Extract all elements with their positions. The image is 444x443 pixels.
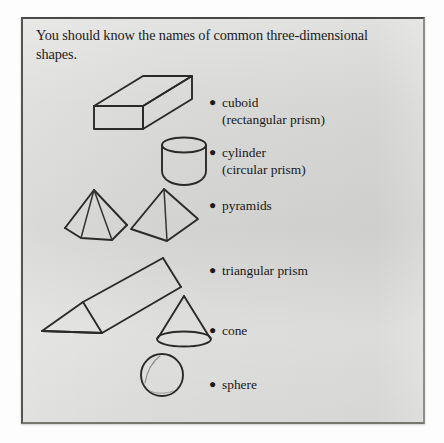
sphere-figure (23, 19, 427, 426)
shape-label-sphere: sphere (222, 376, 257, 393)
label-group-cuboid: cuboid (rectangular prism) (222, 94, 325, 128)
label-row-cone: ● cone (209, 322, 247, 339)
shape-label-triangular-prism: triangular prism (222, 262, 308, 279)
label-row-triangular-prism: ● triangular prism (209, 262, 308, 279)
shape-sublabel-cuboid: (rectangular prism) (222, 111, 325, 128)
bullet-icon: ● (209, 322, 222, 339)
shape-illustrations (23, 19, 427, 426)
label-group-cylinder: cylinder (circular prism) (222, 144, 306, 178)
label-row-cuboid: ● cuboid (rectangular prism) (209, 94, 325, 128)
bullet-icon: ● (209, 94, 222, 111)
label-row-sphere: ● sphere (209, 376, 257, 393)
bullet-icon: ● (209, 262, 222, 279)
sphere-shape (141, 354, 183, 396)
bullet-icon: ● (209, 197, 222, 214)
label-row-cylinder: ● cylinder (circular prism) (209, 144, 306, 178)
bullet-icon: ● (209, 144, 222, 161)
label-row-pyramids: ● pyramids (209, 197, 272, 214)
shape-label-cuboid: cuboid (222, 94, 325, 111)
shape-label-cylinder: cylinder (222, 144, 306, 161)
shape-label-cone: cone (222, 322, 247, 339)
content-panel: You should know the names of common thre… (21, 17, 425, 424)
bullet-icon: ● (209, 376, 222, 393)
shape-label-pyramids: pyramids (222, 197, 272, 214)
scanned-textbook-page: You should know the names of common thre… (0, 0, 444, 443)
shape-sublabel-cylinder: (circular prism) (222, 161, 306, 178)
